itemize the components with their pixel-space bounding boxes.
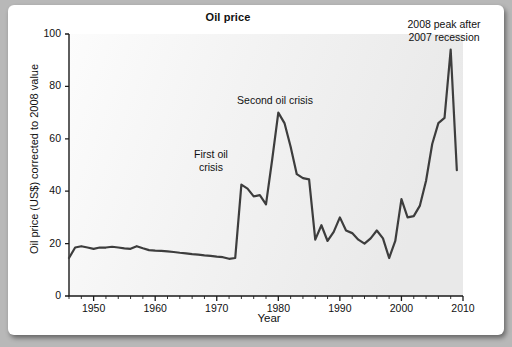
x-tick-label: 2010 xyxy=(443,302,483,314)
y-tick-label: 40 xyxy=(35,184,61,196)
y-axis-label: Oil price (US$) corrected to 2008 value xyxy=(28,29,40,289)
x-tick-label: 1950 xyxy=(74,302,114,314)
y-tick-label: 100 xyxy=(35,27,61,39)
x-tick-label: 1990 xyxy=(320,302,360,314)
figure-card: Oil price Oil price (US$) corrected to 2… xyxy=(8,5,504,335)
x-tick-label: 1960 xyxy=(135,302,175,314)
oil-price-line-chart xyxy=(8,5,504,335)
y-tick-label: 0 xyxy=(35,289,61,301)
y-tick-label: 80 xyxy=(35,79,61,91)
x-tick-label: 2000 xyxy=(381,302,421,314)
x-tick-label: 1980 xyxy=(258,302,298,314)
y-tick-label: 60 xyxy=(35,132,61,144)
annotation-first-oil-crisis: First oil crisis xyxy=(180,148,242,173)
annotation-2008-peak: 2008 peak after 2007 recession xyxy=(386,18,502,43)
annotation-second-oil-crisis: Second oil crisis xyxy=(213,94,337,107)
chart-title: Oil price xyxy=(8,11,448,23)
chart-plot-root: Oil price Oil price (US$) corrected to 2… xyxy=(8,5,504,335)
plot-area-background xyxy=(69,34,463,296)
x-tick-label: 1970 xyxy=(197,302,237,314)
y-tick-label: 20 xyxy=(35,237,61,249)
